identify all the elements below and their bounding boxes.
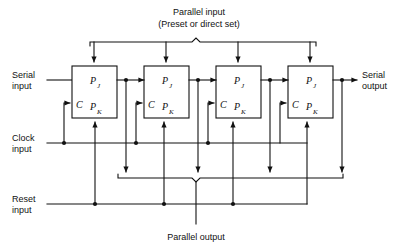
reset-input-label-line1: Reset (12, 194, 36, 204)
reset-bus (47, 122, 307, 206)
pk-subscript: K (240, 108, 246, 116)
serial-output-label-line1: Serial (362, 70, 385, 80)
parallel-output-brace (118, 174, 343, 182)
pj-label: P (89, 75, 96, 86)
junction-dot (206, 141, 210, 145)
parallel-input-label-line1: Parallel input (173, 7, 226, 17)
pk-label: P (89, 101, 96, 112)
junction-dot (62, 141, 66, 145)
junction-dot (134, 141, 138, 145)
shift-register-diagram: Parallel input (Preset or direct set) Se… (0, 0, 398, 251)
pj-label: P (233, 75, 240, 86)
pk-subscript: K (312, 108, 318, 116)
clock-input-label-line1: Clock (12, 133, 35, 143)
pk-subscript: K (168, 108, 174, 116)
serial-input-label-line1: Serial (12, 70, 35, 80)
parallel-input-drop-wires (94, 42, 310, 62)
circuit-svg: Parallel input (Preset or direct set) Se… (0, 0, 398, 251)
pj-label: P (305, 75, 312, 86)
clock-input-label-line2: input (12, 144, 32, 154)
pk-label: P (233, 101, 240, 112)
pk-subscript: K (96, 108, 102, 116)
c-label: C (76, 99, 83, 110)
flipflop-stage-3: P J C P K (216, 66, 261, 118)
flipflop-stage-4: P J C P K (288, 66, 333, 118)
parallel-input-brace (90, 38, 316, 46)
junction-dot (162, 202, 166, 206)
pk-label: P (161, 101, 168, 112)
serial-output-label-line2: output (362, 81, 388, 91)
pk-label: P (305, 101, 312, 112)
parallel-input-label-line2: (Preset or direct set) (158, 19, 240, 29)
flipflop-stage-1: P J C P K (72, 66, 117, 118)
pj-label: P (161, 75, 168, 86)
c-label: C (220, 99, 227, 110)
flipflop-stage-2: P J C P K (144, 66, 189, 118)
parallel-output-label: Parallel output (167, 232, 225, 242)
serial-input-label-line2: input (12, 81, 32, 91)
c-label: C (148, 99, 155, 110)
c-label: C (292, 99, 299, 110)
junction-dot (231, 202, 235, 206)
junction-dot (93, 202, 97, 206)
reset-input-label-line2: input (12, 205, 32, 215)
